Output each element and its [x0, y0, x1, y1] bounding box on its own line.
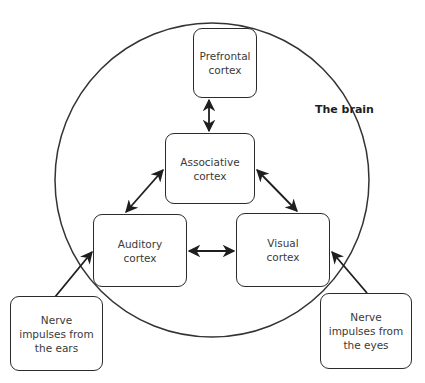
- node-label-line: cortex: [266, 250, 299, 264]
- edge-associative-auditory: [126, 170, 163, 212]
- brain-diagram: The brain Prefrontal cortex Associative …: [0, 0, 425, 383]
- node-label-line: Visual: [266, 236, 299, 250]
- node-label-line: the ears: [19, 341, 94, 355]
- node-associative-cortex: Associative cortex: [165, 133, 255, 204]
- node-prefrontal-cortex: Prefrontal cortex: [193, 28, 257, 98]
- node-label-line: cortex: [180, 169, 239, 183]
- node-nerve-impulses-ears: Nerve impulses from the ears: [10, 296, 103, 371]
- node-label-line: Prefrontal: [199, 49, 250, 63]
- node-label-line: Nerve: [19, 313, 94, 327]
- node-visual-cortex: Visual cortex: [236, 213, 330, 287]
- node-label-line: Auditory: [118, 237, 163, 251]
- node-auditory-cortex: Auditory cortex: [93, 214, 187, 287]
- edge-associative-visual: [257, 170, 297, 211]
- node-label-line: Associative: [180, 155, 239, 169]
- node-nerve-impulses-eyes: Nerve impulses from the eyes: [320, 293, 412, 369]
- node-label-line: cortex: [118, 251, 163, 265]
- node-label-line: Nerve: [329, 310, 404, 324]
- node-label-line: impulses from: [329, 324, 404, 338]
- node-label-line: impulses from: [19, 327, 94, 341]
- node-label-line: the eyes: [329, 338, 404, 352]
- diagram-title: The brain: [315, 103, 374, 116]
- node-label-line: cortex: [199, 63, 250, 77]
- edge-eyes-visual: [332, 252, 367, 293]
